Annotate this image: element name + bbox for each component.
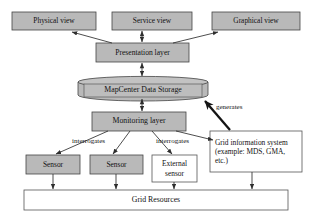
node-shape-grid-resources[interactable] xyxy=(24,190,288,210)
node-shape-physical-view[interactable] xyxy=(12,12,96,30)
edge-grid-info-system-generates-data-storage xyxy=(205,101,230,130)
node-shape-external-sensor[interactable] xyxy=(152,155,197,182)
node-shapes xyxy=(12,12,302,210)
node-shape-presentation-layer[interactable] xyxy=(96,43,189,62)
edge-monitoring-to-sensor-2 xyxy=(113,131,130,154)
node-shape-service-view[interactable] xyxy=(112,12,192,30)
edge-monitoring-to-grid-info-system xyxy=(176,131,213,140)
edge-presentation-to-graphical-view xyxy=(173,32,218,43)
edge-monitoring-to-external-sensor xyxy=(152,131,172,154)
node-shape-grid-info-system[interactable] xyxy=(210,131,302,172)
node-shape-sensor-2[interactable] xyxy=(90,155,143,174)
node-shape-sensor-1[interactable] xyxy=(26,155,80,174)
edge-monitoring-to-sensor-1 xyxy=(56,131,108,154)
edge-presentation-to-physical-view xyxy=(72,32,112,43)
architecture-diagram xyxy=(0,0,311,217)
node-shape-graphical-view[interactable] xyxy=(212,12,300,30)
node-shape-data-storage[interactable] xyxy=(78,76,208,101)
node-shape-monitoring-layer[interactable] xyxy=(92,112,186,131)
